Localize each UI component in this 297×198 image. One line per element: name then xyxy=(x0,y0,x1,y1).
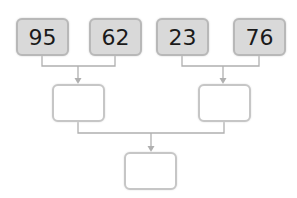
top-box-2-value: 62 xyxy=(102,25,130,50)
connector-right-pair xyxy=(182,55,259,66)
top-box-3: 23 xyxy=(156,18,209,56)
top-box-1-value: 95 xyxy=(29,25,57,50)
top-box-4-value: 76 xyxy=(246,25,274,50)
connector-middle-pair xyxy=(78,121,224,133)
bottom-box[interactable] xyxy=(124,152,177,190)
middle-box-right[interactable] xyxy=(198,84,251,122)
top-box-2: 62 xyxy=(89,18,142,56)
top-box-3-value: 23 xyxy=(169,25,197,50)
connector-left-pair xyxy=(42,55,115,66)
top-box-4: 76 xyxy=(233,18,286,56)
top-box-1: 95 xyxy=(16,18,69,56)
middle-box-left[interactable] xyxy=(52,84,105,122)
